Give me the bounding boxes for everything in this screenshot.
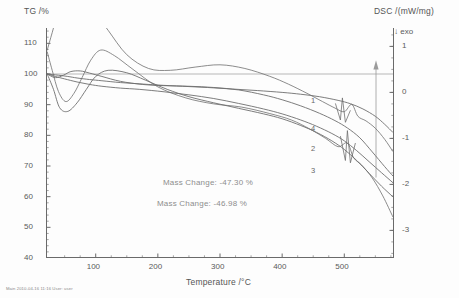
left-axis-title: TG /% (24, 6, 49, 16)
chart-figure: TG /% DSC /(mW/mg) ↓ exo Temperature /°C… (0, 0, 459, 298)
right-tick-label--2: -2 (402, 179, 409, 188)
left-tick-label-110: 110 (24, 38, 37, 47)
right-tick-label--1: -1 (402, 133, 409, 142)
plot-area (46, 28, 394, 258)
instrument-footer: Main 2010-04-16 11:16 User: user (6, 286, 73, 291)
curve-2 (47, 74, 393, 183)
x-tick-label-500: 500 (335, 262, 348, 271)
x-tick-label-300: 300 (211, 262, 224, 271)
left-tick-label-50: 50 (24, 222, 33, 231)
left-tick-label-40: 40 (24, 253, 33, 262)
right-tick-label-1: 1 (402, 41, 406, 50)
x-tick-label-400: 400 (273, 262, 286, 271)
curve-3 (47, 70, 393, 196)
right-tick-label-0: 0 (402, 87, 406, 96)
chart-svg (46, 28, 394, 258)
curve-4 (47, 71, 393, 176)
dsc-endotherm-spike-2 (340, 131, 355, 163)
left-tick-label-70: 70 (24, 161, 33, 170)
dsc-endotherm-spike-1 (335, 98, 350, 122)
right-tick-label--3: -3 (402, 225, 409, 234)
curve-dsc-lower (47, 50, 393, 217)
right-axis-title: DSC /(mW/mg) (374, 6, 434, 16)
curve-dsc-upper (47, 28, 393, 151)
left-tick-label-90: 90 (24, 100, 33, 109)
left-tick-label-60: 60 (24, 192, 33, 201)
exo-direction-marker: ↓ exo (394, 27, 413, 36)
left-tick-label-80: 80 (24, 130, 33, 139)
x-axis-title: Temperature /°C (186, 277, 251, 287)
x-tick-label-200: 200 (149, 262, 162, 271)
exo-arrow-head (373, 60, 378, 69)
x-tick-label-100: 100 (87, 262, 100, 271)
left-tick-label-100: 100 (24, 69, 37, 78)
